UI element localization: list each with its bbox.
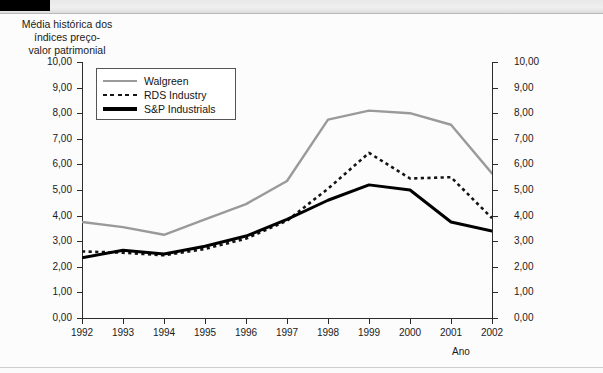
y-tick-label-right: 9,00 [514, 83, 560, 93]
y-tick-label-right: 6,00 [514, 159, 560, 169]
x-axis-caption: Ano [452, 346, 470, 357]
chart-legend: Walgreen RDS Industry S&P Industrials [96, 68, 236, 120]
y-tick-label-left: 2,00 [26, 262, 72, 272]
y-tick-label-left: 8,00 [26, 108, 72, 118]
y-tick-label-left: 7,00 [26, 134, 72, 144]
x-tick-label: 1996 [224, 327, 268, 338]
y-tick-label-left: 6,00 [26, 159, 72, 169]
x-tick [246, 319, 247, 324]
legend-item-rds-industry: RDS Industry [103, 88, 229, 102]
x-tick [123, 319, 124, 324]
legend-label-walgreen: Walgreen [144, 75, 189, 87]
y-tick-right [493, 139, 498, 140]
page-bottom-rule [0, 367, 603, 368]
y-tick-right [493, 216, 498, 217]
x-tick [492, 319, 493, 324]
y-tick-right [493, 164, 498, 165]
y-tick-right [493, 292, 498, 293]
y-tick-right [493, 190, 498, 191]
y-tick-label-right: 7,00 [514, 134, 560, 144]
legend-line-icon-rds-industry [103, 90, 137, 100]
series-line-rds-industry [82, 153, 492, 255]
series-line-sandp-industrials [82, 185, 492, 258]
y-tick-label-right: 8,00 [514, 108, 560, 118]
x-tick-label: 1992 [60, 327, 104, 338]
x-tick [287, 319, 288, 324]
legend-line-icon-sp-industrials [103, 104, 137, 114]
y-tick-label-right: 2,00 [514, 262, 560, 272]
x-tick-label: 2002 [470, 327, 514, 338]
y-tick-label-right: 1,00 [514, 287, 560, 297]
legend-item-sp-industrials: S&P Industrials [103, 102, 229, 116]
page-title: Média histórica dos índices preço- valor… [2, 18, 132, 57]
page-corner-marker [0, 0, 50, 11]
x-tick [369, 319, 370, 324]
x-tick-label: 2000 [388, 327, 432, 338]
y-tick-label-left: 0,00 [26, 313, 72, 323]
y-tick-label-right: 3,00 [514, 236, 560, 246]
x-tick-label: 1998 [306, 327, 350, 338]
y-tick-label-left: 1,00 [26, 287, 72, 297]
x-tick-label: 1994 [142, 327, 186, 338]
y-tick-label-right: 4,00 [514, 211, 560, 221]
y-tick-label-right: 5,00 [514, 185, 560, 195]
y-tick-right [493, 113, 498, 114]
x-tick-label: 1997 [265, 327, 309, 338]
x-tick [328, 319, 329, 324]
y-tick-right [493, 318, 498, 319]
x-tick [451, 319, 452, 324]
y-tick-label-right: 0,00 [514, 313, 560, 323]
y-tick-right [493, 88, 498, 89]
y-tick-label-left: 5,00 [26, 185, 72, 195]
legend-line-icon-walgreen [103, 76, 137, 86]
y-tick-label-left: 10,00 [26, 57, 72, 67]
x-tick-label: 1995 [183, 327, 227, 338]
x-tick [205, 319, 206, 324]
y-tick-label-left: 3,00 [26, 236, 72, 246]
chart-page: Média histórica dos índices preço- valor… [0, 0, 603, 373]
y-tick-right [493, 62, 498, 63]
y-tick-label-left: 4,00 [26, 211, 72, 221]
legend-label-sp-industrials: S&P Industrials [144, 103, 216, 115]
x-tick [410, 319, 411, 324]
x-tick-label: 1999 [347, 327, 391, 338]
x-tick [82, 319, 83, 324]
legend-label-rds-industry: RDS Industry [144, 89, 206, 101]
y-tick-label-left: 9,00 [26, 83, 72, 93]
y-tick-right [493, 241, 498, 242]
x-tick-label: 2001 [429, 327, 473, 338]
y-tick-label-right: 10,00 [514, 57, 560, 67]
series-line-walgreen [82, 111, 492, 235]
x-tick-label: 1993 [101, 327, 145, 338]
legend-item-walgreen: Walgreen [103, 74, 229, 88]
y-tick-right [493, 267, 498, 268]
x-tick [164, 319, 165, 324]
page-top-bar [0, 0, 603, 13]
